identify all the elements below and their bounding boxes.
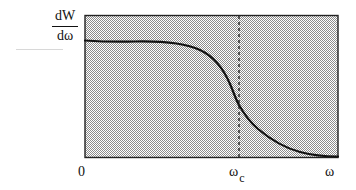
omega-c-subscript: c [239, 171, 244, 185]
x-tick-omega-c: ωc [229, 165, 245, 179]
plot-area [0, 0, 356, 190]
omega-c-symbol: ω [229, 164, 238, 179]
plot-frame [85, 16, 338, 158]
x-tick-zero: 0 [78, 165, 85, 179]
x-tick-omega: ω [325, 165, 334, 179]
